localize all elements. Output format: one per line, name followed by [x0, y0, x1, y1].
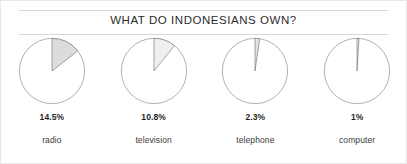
pie-chart-figure: WHAT DO INDONESIANS OWN? 14.5% radio [0, 0, 407, 164]
pie-label-computer: computer [339, 135, 375, 145]
pie-label-telephone: telephone [236, 135, 274, 145]
pie-chart-telephone [221, 37, 289, 105]
pie-value-television: 10.8% [141, 112, 166, 122]
pie-value-computer: 1% [351, 112, 364, 122]
pie-chart-television [120, 37, 188, 105]
title-rule-top [19, 10, 388, 11]
pie-label-television: television [135, 135, 171, 145]
pie-cell-radio: 14.5% radio [1, 37, 103, 164]
title-rule-bottom [19, 34, 388, 35]
pie-value-telephone: 2.3% [245, 112, 265, 122]
pie-value-radio: 14.5% [40, 112, 65, 122]
pie-label-radio: radio [42, 135, 61, 145]
chart-title: WHAT DO INDONESIANS OWN? [1, 14, 406, 26]
pie-row: 14.5% radio 10.8% television [1, 37, 407, 164]
pie-chart-radio [18, 37, 86, 105]
pie-chart-computer [323, 37, 391, 105]
pie-cell-television: 10.8% television [103, 37, 205, 164]
pie-cell-telephone: 2.3% telephone [205, 37, 307, 164]
pie-cell-computer: 1% computer [306, 37, 407, 164]
